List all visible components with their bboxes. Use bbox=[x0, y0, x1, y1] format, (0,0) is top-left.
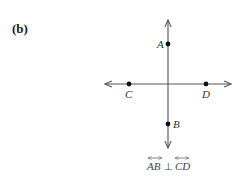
caption: AB ⊥ CD bbox=[146, 158, 190, 172]
point-d-label: D bbox=[201, 88, 210, 100]
caption-left: AB bbox=[146, 160, 161, 172]
point-b-label: B bbox=[173, 118, 180, 130]
point-a-label: A bbox=[156, 38, 164, 50]
perpendicular-symbol: ⊥ bbox=[164, 161, 173, 172]
perpendicular-lines-diagram: A C D B AB ⊥ CD bbox=[0, 0, 251, 178]
point-c-label: C bbox=[125, 88, 133, 100]
caption-right: CD bbox=[175, 160, 190, 172]
